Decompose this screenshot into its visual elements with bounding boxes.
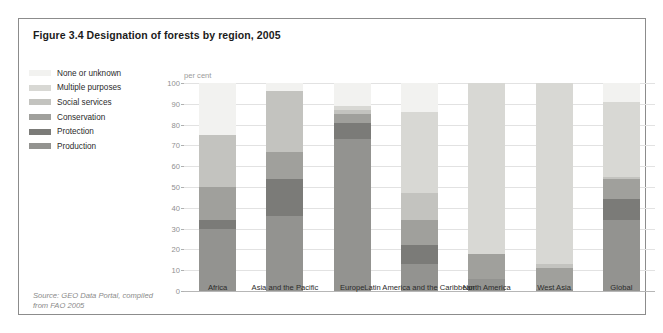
y-axis-tick-label: 80 bbox=[158, 120, 180, 129]
bar-segment bbox=[266, 91, 303, 151]
y-axis-tickmark bbox=[181, 166, 184, 167]
bar-segment bbox=[603, 179, 640, 200]
legend-swatch-icon bbox=[29, 129, 51, 135]
x-axis-category-label: West Asia bbox=[537, 283, 571, 292]
bar-segment bbox=[468, 254, 505, 279]
y-axis-tickmark bbox=[181, 145, 184, 146]
bar-segment bbox=[266, 216, 303, 291]
bars-and-gridlines bbox=[184, 83, 655, 291]
y-axis-tick-label: 0 bbox=[158, 287, 180, 296]
x-axis-category-label: Asia and the Pacific bbox=[252, 283, 319, 292]
y-axis-tick-label: 70 bbox=[158, 141, 180, 150]
bar-segment bbox=[266, 83, 303, 91]
bar-segment bbox=[334, 114, 371, 122]
bar-segment bbox=[603, 220, 640, 291]
chart-legend: None or unknownMultiple purposesSocial s… bbox=[29, 66, 151, 154]
bar-segment bbox=[603, 102, 640, 177]
legend-item-label: Conservation bbox=[57, 113, 105, 122]
bar-segment bbox=[536, 83, 573, 264]
bar-segment bbox=[334, 83, 371, 106]
bar-segment bbox=[401, 220, 438, 245]
y-axis-tick-labels: 0102030405060708090100 bbox=[158, 83, 180, 291]
figure-title: Figure 3.4 Designation of forests by reg… bbox=[33, 29, 281, 41]
legend-item: Production bbox=[29, 139, 151, 154]
bar-segment bbox=[603, 83, 640, 102]
bar-segment bbox=[199, 135, 236, 187]
y-axis-tickmark bbox=[181, 104, 184, 105]
x-axis-category-label: Europe bbox=[340, 283, 365, 292]
legend-item-label: Multiple purposes bbox=[57, 83, 121, 92]
x-axis-category-label: Global bbox=[610, 283, 632, 292]
x-axis-category-label: Latin America and the Caribbean bbox=[364, 283, 475, 292]
y-axis-tick-label: 30 bbox=[158, 224, 180, 233]
source-note: Source: GEO Data Portal, compiled from F… bbox=[33, 291, 163, 312]
bar-segment bbox=[401, 83, 438, 112]
legend-item: Social services bbox=[29, 95, 151, 110]
stacked-bar bbox=[401, 83, 438, 291]
y-axis-tickmark bbox=[181, 187, 184, 188]
bar-segment bbox=[266, 179, 303, 216]
y-axis-tick-label: 20 bbox=[158, 245, 180, 254]
bar-segment bbox=[603, 199, 640, 220]
bar-segment bbox=[401, 193, 438, 220]
legend-item-label: Protection bbox=[57, 127, 94, 136]
y-axis-tick-label: 60 bbox=[158, 162, 180, 171]
y-axis-tickmark bbox=[181, 125, 184, 126]
legend-item: Conservation bbox=[29, 110, 151, 125]
x-axis-category-label: North America bbox=[463, 283, 511, 292]
x-axis-category-label: Africa bbox=[208, 283, 227, 292]
legend-item: None or unknown bbox=[29, 66, 151, 81]
bar-segment bbox=[199, 83, 236, 135]
y-axis-tickmark bbox=[181, 83, 184, 84]
y-axis-tick-label: 10 bbox=[158, 266, 180, 275]
stacked-bar bbox=[334, 83, 371, 291]
figure-container: Figure 3.4 Designation of forests by reg… bbox=[18, 18, 646, 315]
bar-segment bbox=[334, 123, 371, 140]
stacked-bar bbox=[266, 83, 303, 291]
bar-segment bbox=[199, 220, 236, 228]
legend-swatch-icon bbox=[29, 143, 51, 149]
screenshot-root: Figure 3.4 Designation of forests by reg… bbox=[0, 0, 663, 333]
legend-swatch-icon bbox=[29, 85, 51, 91]
bar-segment bbox=[468, 83, 505, 254]
legend-item-label: Social services bbox=[57, 98, 112, 107]
bar-segment bbox=[266, 152, 303, 179]
plot-area: per cent 0102030405060708090100 AfricaAs… bbox=[158, 71, 658, 313]
legend-item: Protection bbox=[29, 124, 151, 139]
bar-segment bbox=[199, 187, 236, 220]
legend-swatch-icon bbox=[29, 99, 51, 105]
y-axis-tickmark bbox=[181, 249, 184, 250]
legend-item-label: Production bbox=[57, 142, 96, 151]
bar-segment bbox=[334, 139, 371, 291]
y-axis-tick-label: 50 bbox=[158, 183, 180, 192]
legend-swatch-icon bbox=[29, 114, 51, 120]
y-axis-tick-label: 40 bbox=[158, 203, 180, 212]
stacked-bar bbox=[468, 83, 505, 291]
bar-segment bbox=[199, 229, 236, 291]
stacked-bar bbox=[603, 83, 640, 291]
y-axis-tickmark bbox=[181, 270, 184, 271]
y-axis-unit-label: per cent bbox=[184, 71, 211, 80]
legend-swatch-icon bbox=[29, 70, 51, 76]
y-axis-tickmark bbox=[181, 208, 184, 209]
bar-segment bbox=[401, 112, 438, 193]
y-axis-tick-label: 90 bbox=[158, 99, 180, 108]
y-axis-tick-label: 100 bbox=[158, 79, 180, 88]
stacked-bar bbox=[199, 83, 236, 291]
legend-item-label: None or unknown bbox=[57, 69, 121, 78]
y-axis-tickmark bbox=[181, 229, 184, 230]
stacked-bar bbox=[536, 83, 573, 291]
bar-segment bbox=[401, 245, 438, 264]
legend-item: Multiple purposes bbox=[29, 81, 151, 96]
